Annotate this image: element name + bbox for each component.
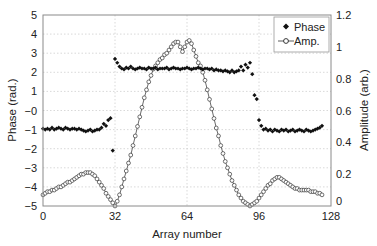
left-tick-label: −2 — [24, 143, 37, 155]
phase-point — [241, 68, 245, 72]
amplitude-point — [208, 97, 212, 101]
amplitude-point — [147, 80, 151, 84]
amplitude-point — [232, 183, 236, 187]
amplitude-point — [138, 115, 142, 119]
phase-point — [239, 64, 243, 68]
right-axis-ticks: 1.210.80.60.40.20 — [336, 9, 351, 207]
left-tick-label: −4 — [24, 181, 37, 193]
amplitude-point — [124, 169, 128, 173]
amplitude-point — [136, 125, 140, 129]
x-axis-label: Array number — [152, 228, 222, 240]
circle-marker-icon — [284, 39, 289, 44]
left-tick-label: −0 — [24, 105, 37, 117]
amplitude-point — [219, 144, 223, 148]
phase-point — [248, 61, 252, 65]
amplitude-point — [176, 40, 180, 44]
right-axis-label: Amplitude (arb.) — [358, 69, 370, 151]
amplitude-point — [118, 193, 122, 197]
amplitude-point — [203, 78, 207, 82]
amplitude-point — [205, 88, 209, 92]
amplitude-point — [223, 160, 227, 164]
legend-label-phase: Phase — [294, 21, 325, 33]
amplitude-line — [43, 41, 322, 207]
amplitude-point — [131, 144, 135, 148]
left-tick-label: 5 — [31, 9, 37, 21]
amplitude-point — [226, 166, 230, 170]
phase-point — [257, 118, 261, 122]
amplitude-point — [183, 45, 187, 49]
amplitude-point — [190, 42, 194, 46]
left-tick-label: 3 — [31, 47, 37, 59]
phase-point — [259, 124, 263, 128]
amplitude-point — [102, 187, 106, 191]
phase-point — [243, 63, 247, 67]
amplitude-point — [235, 188, 239, 192]
right-tick-label: 0.8 — [336, 73, 351, 85]
x-tick-label: 0 — [40, 210, 46, 222]
legend-label-amp: Amp. — [294, 35, 320, 47]
right-tick-label: 1.2 — [336, 9, 351, 21]
left-tick-label: −1 — [24, 124, 37, 136]
left-tick-label: −5 — [24, 200, 37, 212]
x-tick-label: 64 — [181, 210, 193, 222]
amplitude-point — [120, 185, 124, 189]
amplitude-point — [129, 153, 133, 157]
phase-amplitude-chart: 54321−0−1−2−3−4−5 1.210.80.60.40.20 0326… — [0, 0, 377, 246]
phase-point — [246, 65, 250, 69]
phase-point — [111, 149, 115, 153]
x-tick-label: 128 — [322, 210, 340, 222]
amplitude-point — [217, 134, 221, 138]
amplitude-point — [133, 134, 137, 138]
left-tick-label: −3 — [24, 162, 37, 174]
amplitude-point — [194, 54, 198, 58]
amplitude-point — [140, 105, 144, 109]
amplitude-point — [149, 74, 153, 78]
amplitude-point — [192, 48, 196, 52]
right-tick-label: 0 — [336, 195, 342, 207]
amplitude-point — [122, 177, 126, 181]
amplitude-point — [210, 107, 214, 111]
amplitude-point — [142, 96, 146, 100]
right-tick-label: 1 — [336, 41, 342, 53]
phase-point — [113, 57, 117, 61]
x-axis-ticks: 0326496128 — [40, 210, 340, 222]
left-tick-label: 1 — [31, 85, 37, 97]
amplitude-point — [320, 193, 324, 197]
phase-point — [115, 61, 119, 65]
left-tick-label: 4 — [31, 28, 37, 40]
phase-point — [252, 93, 256, 97]
left-axis-ticks: 54321−0−1−2−3−4−5 — [24, 9, 37, 212]
amplitude-point — [115, 199, 119, 203]
right-tick-label: 0.6 — [336, 105, 351, 117]
amplitude-series — [41, 39, 324, 208]
phase-series — [41, 57, 324, 153]
amplitude-point — [214, 126, 218, 130]
legend: Phase Amp. — [274, 17, 329, 52]
phase-point — [255, 97, 259, 101]
amplitude-point — [145, 88, 149, 92]
right-tick-label: 0.2 — [336, 168, 351, 180]
amplitude-point — [228, 172, 232, 176]
x-tick-label: 96 — [253, 210, 265, 222]
right-tick-label: 0.4 — [336, 136, 351, 148]
amplitude-point — [230, 179, 234, 183]
x-tick-label: 32 — [109, 210, 121, 222]
phase-point — [250, 72, 254, 76]
amplitude-point — [178, 45, 182, 49]
amplitude-point — [127, 161, 131, 165]
left-axis-label: Phase (rad.) — [6, 78, 18, 141]
amplitude-point — [181, 50, 185, 54]
amplitude-point — [212, 117, 216, 121]
amplitude-point — [221, 152, 225, 156]
left-tick-label: 2 — [31, 66, 37, 78]
